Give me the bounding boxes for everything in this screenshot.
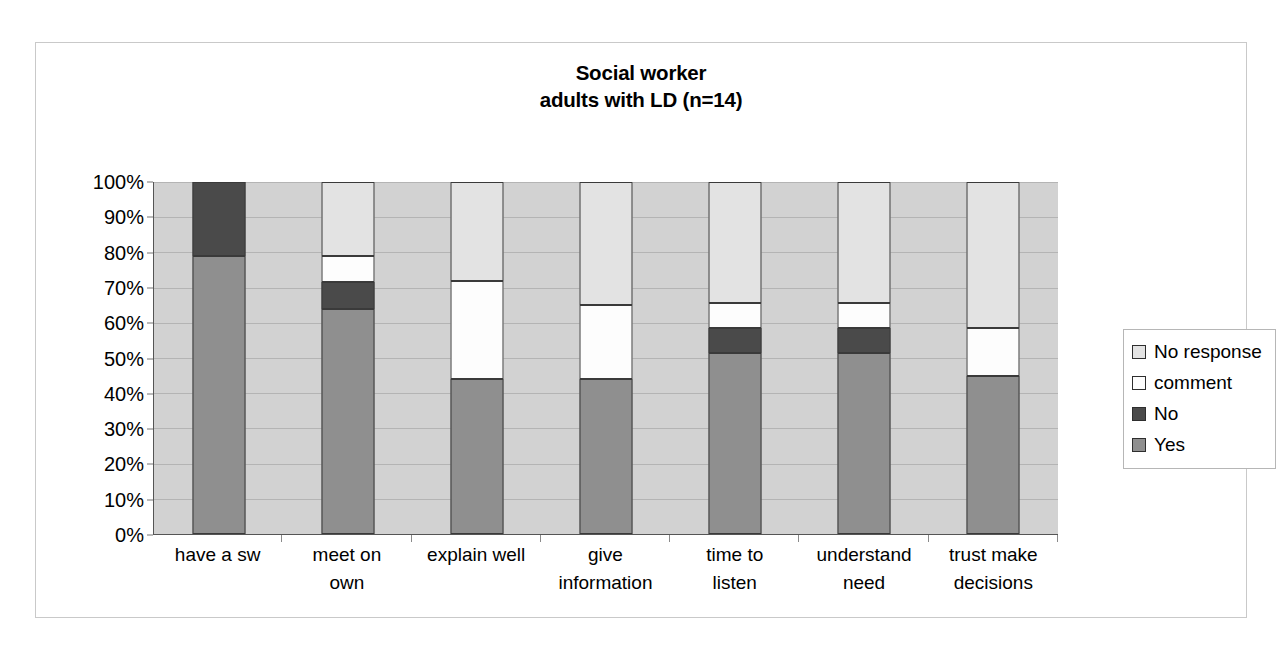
y-axis-tick: [147, 182, 153, 183]
chart-title: Social worker adults with LD (n=14): [36, 59, 1246, 114]
legend-label: Yes: [1154, 434, 1185, 456]
y-axis-tick-label: 50%: [104, 347, 144, 370]
chart-frame: Social worker adults with LD (n=14) 100%…: [35, 42, 1247, 618]
legend-item[interactable]: No: [1132, 398, 1267, 429]
y-axis-tick-label: 40%: [104, 382, 144, 405]
x-axis-category-label: have a sw: [153, 541, 282, 596]
y-axis-tick-label: 30%: [104, 418, 144, 441]
legend-item[interactable]: No response: [1132, 336, 1267, 367]
y-axis-tick: [147, 429, 153, 430]
x-axis-category-label: meet on own: [282, 541, 411, 596]
legend-item[interactable]: Yes: [1132, 429, 1267, 460]
y-axis-tick-label: 80%: [104, 241, 144, 264]
y-axis-tick-label: 90%: [104, 206, 144, 229]
y-axis-tick: [147, 393, 153, 394]
chart-title-line-2: adults with LD (n=14): [36, 86, 1246, 113]
x-axis-category-label: explain well: [412, 541, 541, 596]
x-axis-category-label: trust make decisions: [929, 541, 1058, 596]
y-axis: 100%90%80%70%60%50%40%30%20%10%0%: [153, 182, 1058, 535]
chart-canvas: Social worker adults with LD (n=14) 100%…: [0, 0, 1282, 660]
y-axis-tick: [147, 499, 153, 500]
x-axis-category-label: give information: [541, 541, 670, 596]
y-axis-tick: [147, 323, 153, 324]
plot-region: 100%90%80%70%60%50%40%30%20%10%0%: [153, 182, 1058, 535]
chart-title-line-1: Social worker: [36, 59, 1246, 86]
y-axis-tick-label: 60%: [104, 312, 144, 335]
legend-label: No: [1154, 403, 1178, 425]
y-axis-tick-label: 20%: [104, 453, 144, 476]
y-axis-tick-label: 0%: [115, 524, 144, 547]
y-axis-tick: [147, 358, 153, 359]
y-axis-tick-label: 10%: [104, 488, 144, 511]
y-axis-tick: [147, 217, 153, 218]
y-axis-tick-label: 100%: [93, 171, 144, 194]
y-axis-tick-label: 70%: [104, 276, 144, 299]
legend-swatch-icon: [1132, 407, 1146, 421]
y-axis-tick: [147, 252, 153, 253]
y-axis-tick: [147, 287, 153, 288]
y-axis-tick: [147, 464, 153, 465]
legend-label: No response: [1154, 341, 1262, 363]
x-axis-category-label: understand need: [799, 541, 928, 596]
legend-swatch-icon: [1132, 376, 1146, 390]
chart-legend: No responsecommentNoYes: [1123, 329, 1276, 469]
legend-swatch-icon: [1132, 438, 1146, 452]
x-axis-category-label: time to listen: [670, 541, 799, 596]
legend-swatch-icon: [1132, 345, 1146, 359]
x-axis-labels: have a swmeet on ownexplain wellgive inf…: [153, 541, 1058, 596]
legend-item[interactable]: comment: [1132, 367, 1267, 398]
legend-label: comment: [1154, 372, 1232, 394]
